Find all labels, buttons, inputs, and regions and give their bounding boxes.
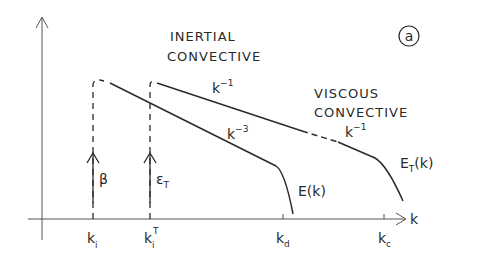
label-beta: β	[99, 171, 108, 187]
tick-label-kd: kd	[276, 230, 290, 249]
label-ET: ET(k)	[400, 155, 433, 174]
label-E: E(k)	[298, 183, 326, 199]
tick-label-ki: ki	[87, 230, 98, 250]
slope-viscous-ET: k−1	[345, 122, 366, 140]
curve-ET-transition	[302, 131, 338, 142]
curve-ET-viscous	[338, 142, 403, 201]
injection-arrows	[87, 153, 156, 203]
slope-inertial-E: k−3	[227, 124, 248, 142]
curve-E	[110, 83, 293, 214]
x-axis-label: k	[410, 211, 419, 227]
panel-label: a	[405, 28, 414, 44]
spectrum-diagram: a INERTIAL CONVECTIVE VISCOUS CONVECTIVE…	[0, 0, 488, 267]
curve-ET-inertial	[157, 83, 302, 131]
region-inertial-2: CONVECTIVE	[167, 49, 261, 64]
tick-label-kc: kc	[378, 230, 391, 249]
dash-ki	[93, 80, 104, 219]
slope-inertial-ET: k−1	[212, 78, 233, 96]
region-viscous-1: VISCOUS	[314, 86, 379, 101]
region-inertial-1: INERTIAL	[170, 29, 236, 44]
region-viscous-2: CONVECTIVE	[314, 105, 408, 120]
label-epsT: εT	[156, 171, 170, 190]
dash-kiT	[150, 81, 155, 219]
tick-label-kiT-sup: T	[152, 226, 159, 236]
